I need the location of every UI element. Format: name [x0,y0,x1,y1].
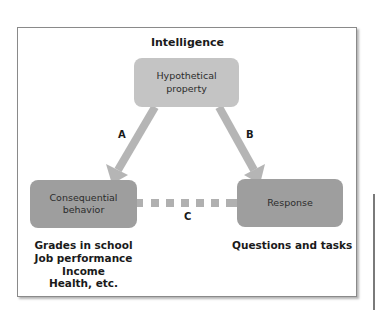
edge-label-b: B [246,129,254,140]
edge-label-c: C [184,211,191,222]
caption-line: Income [25,265,142,278]
caption-line: Questions and tasks [232,239,347,252]
node-response: Response [237,179,343,227]
arrow-a [106,107,155,184]
node-consequential-behavior: Consequential behavior [30,180,137,228]
dashed-connector-c [137,199,237,207]
caption-consequential-behavior: Grades in school Job performance Income … [25,239,142,290]
caption-line: Grades in school [25,239,142,252]
node-label-line: Response [267,197,313,209]
caption-response: Questions and tasks [232,239,347,252]
node-hypothetical-property: Hypothetical property [134,58,239,107]
diagram-title: Intelligence [0,36,375,49]
edge-label-a: A [118,129,126,140]
node-label-line: Hypothetical [156,70,216,82]
caption-line: Job performance [25,252,142,265]
node-label-line: behavior [49,204,117,216]
node-label-line: property [156,83,216,95]
arrow-b [219,107,265,184]
node-label-line: Consequential [49,192,117,204]
caption-line: Health, etc. [25,277,142,290]
